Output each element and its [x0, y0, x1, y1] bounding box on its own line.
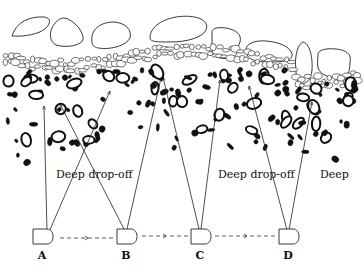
dark-pebble: [267, 114, 276, 123]
gravel-stone: [107, 54, 111, 59]
dark-pebble: [127, 110, 132, 115]
dark-pebble: [253, 139, 259, 145]
ring-stone: [3, 75, 14, 87]
dark-pebble: [145, 99, 152, 108]
position-label-c: C: [196, 249, 205, 262]
gravel-stone: [199, 53, 208, 60]
dark-pebble: [225, 77, 232, 83]
boulder-layer: [12, 16, 350, 84]
ring-stone: [20, 132, 32, 148]
gravel-stone: [134, 56, 142, 60]
ring-stone: [312, 116, 321, 131]
gravel-stone: [287, 60, 296, 63]
gravel-stone: [303, 86, 311, 90]
gravel-stone: [189, 44, 194, 50]
dark-pebble: [276, 119, 280, 125]
dark-pebble: [13, 107, 18, 112]
dark-pebble: [163, 109, 170, 117]
dark-pebble: [29, 122, 37, 126]
gravel-stone: [56, 66, 64, 72]
gravel-stone: [174, 44, 179, 50]
dark-pebble: [221, 79, 226, 84]
gravel-stone: [334, 80, 339, 84]
gravel-stone: [16, 56, 26, 60]
position-label-d: D: [283, 249, 293, 262]
dark-pebble: [6, 117, 10, 124]
dark-pebble: [98, 125, 106, 133]
gravel-stone: [244, 57, 249, 61]
dark-pebble: [195, 99, 203, 105]
ring-stone: [72, 104, 84, 118]
gravel-stone: [139, 50, 145, 53]
dark-pebble: [335, 87, 340, 92]
vessel-d: [279, 229, 299, 244]
region-label-drop2: Deep drop-off: [218, 168, 296, 181]
gravel-stone: [30, 56, 34, 63]
region-labels: Deep drop-offDeep drop-offDeep: [56, 168, 349, 181]
sonar-beam-a: [44, 106, 47, 232]
gravel-stone: [101, 66, 105, 69]
gravel-stone: [183, 44, 189, 48]
vessel-a: [33, 229, 53, 244]
region-label-deep: Deep: [320, 168, 349, 181]
gravel-stone: [202, 45, 207, 49]
gravel-stone: [273, 64, 278, 70]
dark-pebble: [14, 138, 19, 143]
gravel-stone: [157, 50, 161, 56]
gravel-stone: [162, 52, 168, 55]
dark-pebble: [169, 88, 173, 92]
region-label-drop1: Deep drop-off: [56, 168, 134, 181]
dark-pebble: [283, 86, 290, 92]
gravel-stone: [72, 58, 80, 64]
gravel-stone: [168, 51, 174, 55]
vessel-markers: [33, 229, 299, 244]
gravel-stone: [288, 68, 298, 72]
gravel-stone: [278, 63, 282, 68]
dark-pebble: [54, 76, 60, 83]
ring-stone: [196, 124, 208, 134]
dark-pebble: [245, 70, 253, 78]
gravel-stone: [144, 57, 152, 62]
dark-pebble: [138, 125, 143, 129]
gravel-stone: [222, 49, 229, 52]
dark-pebble: [282, 79, 290, 86]
dark-pebble: [61, 74, 69, 82]
gravel-stone: [304, 74, 311, 78]
dark-pebble: [312, 130, 319, 137]
dark-pebble: [287, 139, 294, 146]
dark-pebble: [7, 92, 13, 97]
gravel-stone: [248, 51, 255, 56]
dark-pebble: [212, 71, 217, 78]
gravel-stone: [255, 60, 260, 65]
dark-pebble: [140, 67, 144, 73]
vessel-track: [60, 234, 277, 240]
dark-pebble: [293, 105, 299, 111]
dark-pebble: [287, 132, 295, 140]
dark-pebble: [202, 84, 211, 90]
dark-pebble: [159, 88, 169, 96]
dark-pebble: [331, 155, 340, 164]
dark-pebble: [207, 72, 213, 77]
gravel-stone: [39, 58, 47, 64]
gravel-stone: [84, 65, 89, 69]
ring-stone: [87, 118, 99, 131]
ring-stone: [343, 95, 354, 106]
gravel-stone: [66, 69, 75, 73]
dark-pebble: [156, 124, 160, 132]
gravel-stone: [34, 65, 41, 68]
ring-stone: [116, 73, 129, 83]
gravel-stone: [153, 55, 158, 59]
gravel-stone: [275, 58, 284, 61]
dark-pebble: [233, 103, 239, 110]
gravel-stone: [92, 57, 97, 60]
position-labels: ABCD: [37, 249, 294, 262]
ring-stone: [176, 95, 188, 108]
ring-stone: [245, 125, 259, 136]
gravel-stone: [314, 73, 322, 79]
dark-pebble: [162, 98, 166, 104]
dark-pebble: [274, 83, 280, 87]
position-label-b: B: [121, 249, 130, 262]
gravel-stone: [85, 56, 91, 61]
gravel-stone: [177, 51, 185, 58]
position-label-a: A: [37, 249, 47, 262]
